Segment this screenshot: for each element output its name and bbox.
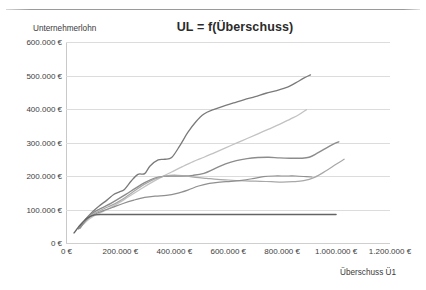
series-line xyxy=(80,176,312,228)
series-line xyxy=(79,110,306,229)
chart-screenshot: UL = f(Überschuss) Unternehmerlohn Übers… xyxy=(0,0,426,290)
series-line xyxy=(74,215,336,233)
chart-series-lines xyxy=(0,0,426,290)
